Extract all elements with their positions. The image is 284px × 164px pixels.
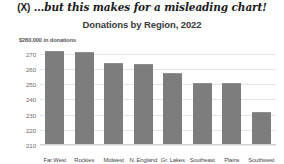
x-axis-tick-label: Rockies [74,157,94,163]
x-axis-labels: Far WestRockiesMidwestN. EnglandGr. Lake… [40,148,276,164]
x-axis-tick-label: Midwest [103,157,124,163]
x-label-slot: Southeast [188,148,218,164]
bar-slot [129,46,159,145]
bar[interactable] [134,64,153,145]
x-label-slot: N. England [129,148,159,164]
bar[interactable] [252,112,271,146]
y-axis-tick-label: 210 [26,142,36,149]
bar-slot [70,46,100,145]
bar-slot [247,46,277,145]
misleading-chart-annotation: (X) …but this makes for a misleading cha… [0,1,284,13]
x-axis-tick-label: Southwest [248,157,274,163]
y-axis-tick-label: 250 [26,81,36,88]
y-axis-tick-label: 230 [26,111,36,118]
chart-screenshot: (X) …but this makes for a misleading cha… [0,0,284,164]
bar[interactable] [45,51,64,145]
bar-slot [99,46,129,145]
annotation-text: …but this makes for a misleading chart! [34,1,267,13]
y-axis-tick-label: 240 [26,96,36,103]
bar-slot [40,46,70,145]
x-axis-tick-label: Plains [224,157,239,163]
gridline: 210 [40,145,276,146]
y-axis-tick-label: 270 [26,50,36,57]
bar-slot [188,46,218,145]
bar[interactable] [193,83,212,145]
x-axis-tick-label: Gr. Lakes [161,157,185,163]
x-axis-line [40,144,276,145]
x-label-slot: Far West [40,148,70,164]
bar-slot [217,46,247,145]
x-label-slot: Southwest [247,148,277,164]
plot-area: 270260250240230220210 [40,46,276,145]
bar[interactable] [222,83,241,145]
x-label-slot: Gr. Lakes [158,148,188,164]
bar-slot [158,46,188,145]
x-label-slot: Midwest [99,148,129,164]
x-axis-tick-label: N. England [129,157,157,163]
x-marker: (X) [17,2,30,13]
x-axis-tick-label: Southeast [190,157,215,163]
chart-title: Donations by Region, 2022 [0,19,284,30]
bar[interactable] [163,73,182,145]
bar-series [40,46,276,145]
y-axis-tick-label: 220 [26,126,36,133]
x-label-slot: Rockies [70,148,100,164]
y-axis-tick-label: 260 [26,65,36,72]
x-axis-tick-label: Far West [43,157,66,163]
bar[interactable] [75,52,94,145]
y-axis-unit-caption: $280,000 in donations [19,37,76,43]
bar[interactable] [104,63,123,145]
x-label-slot: Plains [217,148,247,164]
